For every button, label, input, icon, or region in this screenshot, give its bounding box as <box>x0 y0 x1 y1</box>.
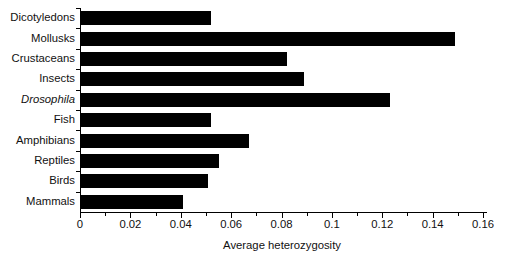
category-label: Dicotyledons <box>0 12 75 23</box>
y-tick <box>76 110 81 111</box>
y-tick <box>76 28 81 29</box>
bar <box>80 32 455 46</box>
y-tick <box>76 130 81 131</box>
x-axis-title: Average heterozygosity <box>0 240 508 251</box>
category-label: Insects <box>0 73 75 84</box>
y-tick <box>76 49 81 50</box>
y-tick <box>76 151 81 152</box>
y-tick <box>76 192 81 193</box>
x-axis-line <box>80 212 487 213</box>
bar-row <box>80 192 483 212</box>
category-label: Mammals <box>0 196 75 207</box>
x-tick-label: 0.02 <box>119 219 141 230</box>
bar-row <box>80 28 483 48</box>
x-tick-label: 0.14 <box>422 219 444 230</box>
bar <box>80 72 304 86</box>
x-tick-label: 0.12 <box>371 219 393 230</box>
x-tick-label: 0.16 <box>472 219 494 230</box>
x-tick-label: 0.1 <box>324 219 340 230</box>
x-axis-title-text: Average heterozygosity <box>223 240 341 251</box>
bar <box>80 195 183 209</box>
bar <box>80 154 219 168</box>
category-label: Amphibians <box>0 135 75 146</box>
x-tick-label: 0.06 <box>220 219 242 230</box>
y-tick <box>76 8 81 9</box>
x-tick-minor <box>105 213 106 216</box>
x-tick-minor <box>458 213 459 216</box>
category-label: Drosophila <box>0 94 75 105</box>
bar <box>80 174 208 188</box>
x-tick-label: 0 <box>77 219 83 230</box>
bar-row <box>80 49 483 69</box>
x-tick-minor <box>407 213 408 216</box>
x-tick-minor <box>156 213 157 216</box>
y-tick <box>76 69 81 70</box>
category-label: Fish <box>0 114 75 125</box>
x-tick-minor <box>206 213 207 216</box>
bar <box>80 11 211 25</box>
y-tick <box>76 171 81 172</box>
bar-row <box>80 151 483 171</box>
y-tick <box>76 90 81 91</box>
bar <box>80 52 287 66</box>
category-label: Reptiles <box>0 155 75 166</box>
category-label: Birds <box>0 175 75 186</box>
bar-row <box>80 130 483 150</box>
category-label: Crustaceans <box>0 53 75 64</box>
x-tick-minor <box>307 213 308 216</box>
bar-row <box>80 69 483 89</box>
bar <box>80 134 249 148</box>
chart-page: DicotyledonsMollusksCrustaceansInsectsDr… <box>0 0 508 268</box>
x-tick-minor <box>357 213 358 216</box>
bar-row <box>80 110 483 130</box>
x-tick-minor <box>256 213 257 216</box>
category-label: Mollusks <box>0 33 75 44</box>
x-tick-label: 0.08 <box>271 219 293 230</box>
bar-row <box>80 171 483 191</box>
bar <box>80 113 211 127</box>
bar <box>80 93 390 107</box>
bar-row <box>80 90 483 110</box>
bar-row <box>80 8 483 28</box>
x-tick-label: 0.04 <box>170 219 192 230</box>
